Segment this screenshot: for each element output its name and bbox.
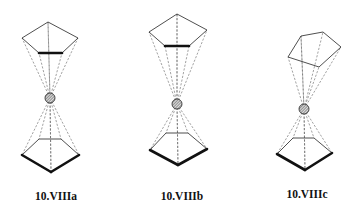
structure-c: 10.VIIIc [277,32,341,200]
bottom-ring-front-edge [22,155,51,172]
bottom-ring-front-edge [305,153,332,170]
structure-a: 10.VIIIa [22,22,79,202]
bond-lines [277,32,341,170]
bottom-ring-front-edge [150,150,178,165]
metal-atom [299,104,309,114]
structure-label: 10.VIIIc [286,188,327,200]
top-cyclopentadienyl-ring [288,32,341,67]
metal-atom [172,99,182,109]
bottom-cyclopentadienyl-ring [277,138,332,170]
bottom-cyclopentadienyl-ring [150,133,207,165]
structure-b: 10.VIIIb [149,14,207,202]
top-cyclopentadienyl-ring [149,14,207,46]
structure-label: 10.VIIIb [161,190,204,202]
bottom-ring-front-edge [51,155,79,172]
structure-label: 10.VIIIa [35,190,77,202]
top-cyclopentadienyl-ring [22,22,78,53]
bottom-ring-front-edge [277,154,305,170]
metal-atom [45,93,55,103]
metallocene-diagram: 10.VIIIa10.VIIIb10.VIIIc [0,0,355,212]
bottom-ring-front-edge [178,149,207,165]
